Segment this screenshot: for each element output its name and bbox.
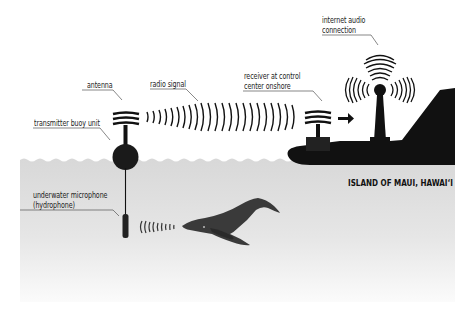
island-silhouette-icon — [288, 88, 456, 165]
label-receiver-line2: center onshore — [244, 81, 291, 91]
label-transmitter-buoy: transmitter buoy unit — [34, 118, 100, 128]
label-internet-line1: internet audio — [322, 15, 365, 25]
diagram-canvas: antenna radio signal transmitter buoy un… — [0, 0, 475, 314]
buoy-icon — [113, 144, 139, 170]
arrow-right-icon — [338, 113, 354, 124]
label-internet-line2: connection — [322, 25, 356, 35]
broadcast-tower-icon — [346, 56, 415, 142]
label-radio-signal: radio signal — [150, 79, 186, 89]
label-receiver-line1: receiver at control — [244, 71, 300, 81]
label-hydrophone-line1: underwater microphone — [33, 190, 107, 200]
radio-waves-icon — [147, 103, 294, 131]
label-antenna: antenna — [87, 80, 113, 90]
label-hydrophone-line2: (hydrophone) — [33, 200, 75, 210]
antenna-icon — [113, 113, 139, 148]
diagram-scene — [0, 0, 475, 314]
receiver-antenna-icon — [305, 112, 331, 152]
label-island-of-maui: ISLAND OF MAUI, HAWAI‘I — [348, 178, 453, 188]
